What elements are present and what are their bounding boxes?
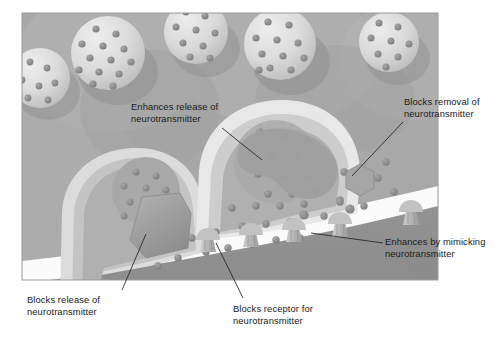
vesicle — [10, 48, 70, 108]
vesicle — [164, 0, 228, 64]
figure-container: Enhances release of neurotransmitter Blo… — [0, 0, 502, 337]
vesicle — [359, 12, 419, 72]
synapse-illustration — [0, 0, 502, 337]
vesicle — [71, 16, 145, 90]
vesicle — [244, 8, 316, 80]
